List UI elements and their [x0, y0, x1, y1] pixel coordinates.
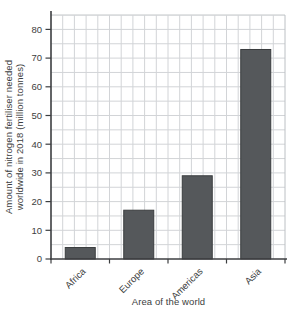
- y-tick-label: 40: [31, 139, 42, 150]
- bar-americas: [182, 176, 212, 259]
- y-tick-label: 80: [31, 24, 42, 35]
- y-axis-title: Amount of nitrogen fertiliser needed wor…: [4, 7, 26, 267]
- y-tick-label: 20: [31, 196, 42, 207]
- fertiliser-bar-chart-figure: 01020304050607080AfricaEuropeAmericasAsi…: [0, 0, 290, 311]
- bar-europe: [124, 210, 154, 259]
- y-tick-label: 50: [31, 110, 42, 121]
- y-tick-label: 10: [31, 225, 42, 236]
- y-tick-label: 30: [31, 167, 42, 178]
- bar-chart-canvas: 01020304050607080AfricaEuropeAmericasAsi…: [0, 0, 290, 311]
- bar-africa: [65, 248, 95, 259]
- y-axis-title-line1: Amount of nitrogen fertiliser needed: [4, 7, 15, 267]
- category-label-europe: Europe: [117, 266, 146, 295]
- x-axis-title: Area of the world: [51, 296, 286, 307]
- bar-asia: [241, 49, 271, 259]
- y-axis-title-line2: worldwide in 2018 (million tonnes): [15, 7, 26, 267]
- y-tick-label: 60: [31, 81, 42, 92]
- category-label-africa: Africa: [63, 265, 88, 290]
- category-label-asia: Asia: [242, 265, 263, 286]
- y-tick-label: 0: [37, 253, 42, 264]
- y-tick-label: 70: [31, 52, 42, 63]
